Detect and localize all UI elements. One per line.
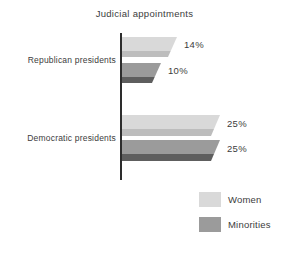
legend-swatch-women	[199, 192, 221, 207]
value-label-women-democratic: 25%	[227, 118, 247, 130]
y-axis-line	[120, 33, 122, 180]
bar-minorities-democratic	[122, 140, 220, 161]
category-label-republican: Republican presidents	[0, 54, 116, 66]
legend-swatch-minorities	[199, 217, 221, 232]
category-label-democratic: Democratic presidents	[0, 132, 116, 144]
legend-row-minorities: Minorities	[199, 217, 271, 232]
bar-women-republican	[122, 37, 177, 57]
legend: Women Minorities	[199, 192, 271, 242]
chart-title: Judicial appointments	[0, 8, 289, 19]
legend-row-women: Women	[199, 192, 271, 207]
legend-label-minorities: Minorities	[228, 219, 271, 230]
value-label-minorities-republican: 10%	[168, 65, 188, 77]
value-label-women-republican: 14%	[184, 39, 204, 51]
bar-women-democratic	[122, 115, 220, 136]
bar-minorities-republican	[122, 63, 161, 83]
bar-chart: Judicial appointments Republican preside…	[0, 0, 289, 256]
legend-label-women: Women	[228, 194, 262, 205]
value-label-minorities-democratic: 25%	[227, 143, 247, 155]
